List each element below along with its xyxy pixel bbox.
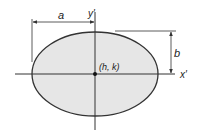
label-x-prime: x′	[179, 69, 188, 80]
label-center-hk: (h, k)	[99, 62, 120, 72]
center-point	[93, 72, 97, 76]
ellipse-diagram: a y′ b x′ (h, k)	[0, 0, 199, 138]
label-y-prime: y′	[87, 8, 96, 19]
label-a: a	[58, 9, 64, 21]
label-b: b	[174, 47, 180, 59]
